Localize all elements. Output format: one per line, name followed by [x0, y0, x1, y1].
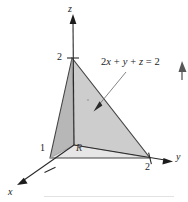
y-tick-label-2: 2: [145, 162, 150, 172]
x-tick-label-1: 1: [40, 143, 45, 153]
x-axis-tick-1: [45, 167, 56, 172]
x-axis-label: x: [8, 187, 12, 197]
edge-cropped-arrow-stem: [181, 72, 183, 80]
x-axis-line: [24, 145, 74, 180]
y-axis-label: y: [176, 152, 180, 162]
plane-equation-label: 2x + y + z = 2: [101, 57, 160, 68]
plane-tetrahedron-figure: z y x 2 2 1 R 2x + y + z = 2: [0, 0, 188, 202]
z-axis-arrowhead: [70, 14, 77, 24]
eq-var-y: y: [123, 56, 128, 67]
eq-plus-1: +: [114, 56, 120, 67]
z-tick-label-2: 2: [57, 52, 62, 62]
eq-var-x: x: [106, 56, 111, 67]
z-axis-label: z: [68, 4, 72, 14]
page-rule-divider: [44, 196, 174, 197]
y-axis-arrowhead: [162, 158, 173, 165]
eq-plus-2: +: [130, 56, 136, 67]
plane-point-marker: [87, 99, 89, 101]
eq-var-z: z: [139, 56, 143, 67]
eq-rhs: 2: [155, 56, 160, 67]
equation-leader-line: [98, 72, 126, 106]
figure-canvas: [0, 0, 188, 202]
region-label-R: R: [76, 143, 82, 153]
edge-cropped-arrow-icon: [179, 61, 187, 72]
eq-equals: =: [146, 56, 152, 67]
